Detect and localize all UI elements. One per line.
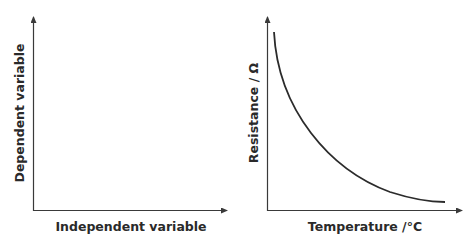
right-y-axis-label: Resistance / Ω: [246, 62, 261, 163]
left-y-axis-label: Dependent variable: [12, 43, 27, 182]
right-x-axis-label: Temperature /°C: [308, 219, 422, 234]
left-graph: Independent variable Dependent variable: [12, 17, 227, 234]
left-x-axis-label: Independent variable: [55, 219, 206, 234]
resistance-curve: [274, 32, 445, 202]
right-graph: Temperature /°C Resistance / Ω: [246, 17, 462, 234]
diagram-canvas: Independent variable Dependent variable …: [0, 0, 474, 251]
